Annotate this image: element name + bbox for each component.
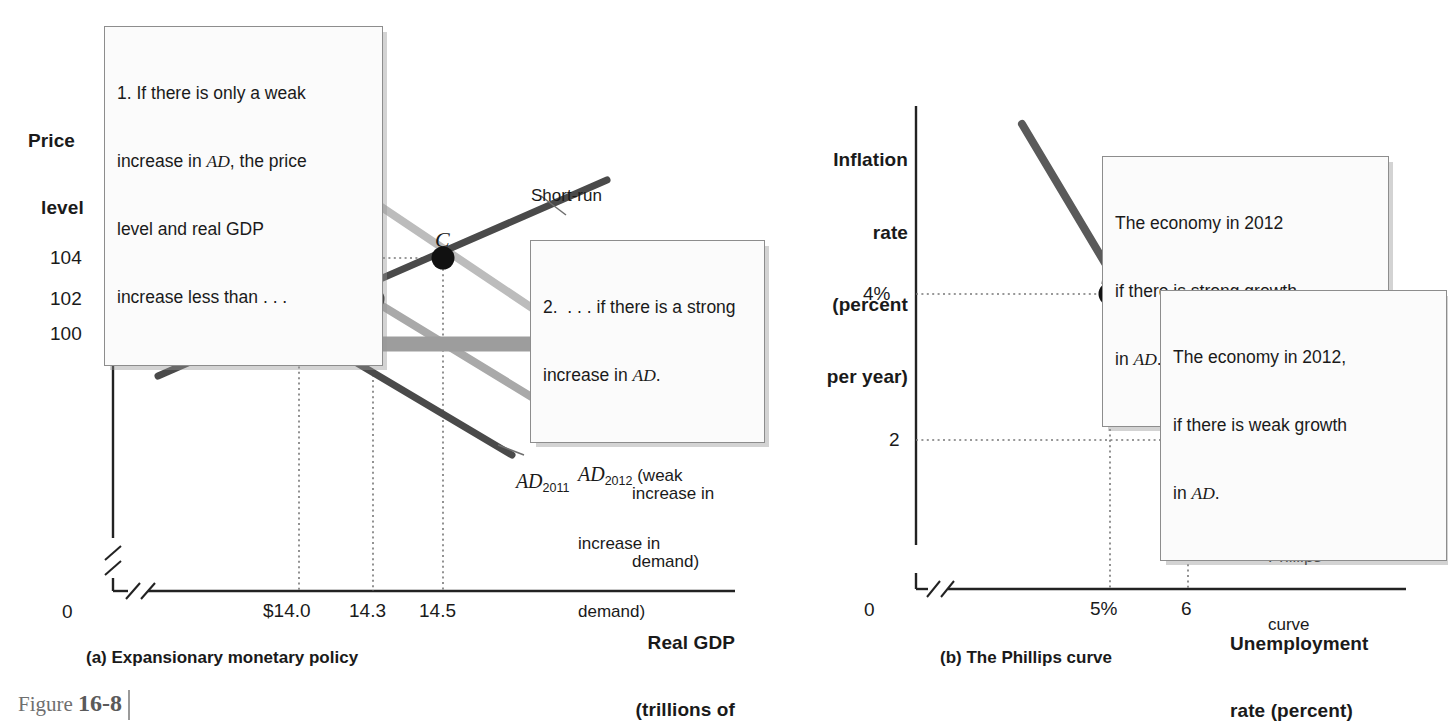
ad2011-sub: 2011 [543, 481, 570, 495]
x-tick-14-5: 14.5 [419, 600, 456, 622]
ad2011-base: AD [516, 470, 543, 492]
panel-a-caption: (a) Expansionary monetary policy [86, 648, 358, 668]
callout3-ad: AD [1133, 349, 1156, 369]
b-x-title-line2: rate (percent) [1230, 700, 1430, 722]
phillips-line2: curve [1268, 614, 1322, 637]
b-y-title-line2: rate [818, 221, 908, 245]
b-x-title-line1: Unemployment [1230, 633, 1430, 655]
ad-weak-line2: increase in [578, 533, 683, 556]
ad-weak-line1: AD2012 (weak [578, 461, 683, 488]
ad-weak-l1: (weak [632, 466, 682, 485]
panel-b-x-axis-title: Unemployment rate (percent) [1230, 589, 1430, 727]
callout1-line2c: , the price [230, 151, 307, 171]
b-y-title-line4: per year) [818, 365, 908, 389]
figure-number: Figure 16-8 [18, 690, 122, 717]
callout3-line1: The economy in 2012 [1115, 212, 1377, 235]
y-tick-104: 104 [50, 247, 82, 269]
panel-a-origin: 0 [62, 601, 73, 623]
x-axis-title-line2: (trillions of [549, 699, 735, 721]
y-tick-102: 102 [50, 288, 82, 310]
y-tick-100: 100 [50, 323, 82, 345]
b-x-tick-5: 5% [1090, 598, 1117, 620]
b-y-tick-4: 4% [863, 283, 890, 305]
panel-expansionary-monetary-policy: Price level 104 102 100 0 $14.0 14.3 14.… [0, 0, 790, 727]
callout1-line2: increase in AD, the price [117, 150, 371, 173]
callout4-line3c: . [1215, 483, 1220, 503]
y-axis-title-line2: level [28, 197, 84, 219]
sras-line1: Short-run [531, 185, 626, 208]
callout-weak-increase: 1. If there is only a weak increase in A… [104, 26, 383, 366]
callout-weak-growth: The economy in 2012, if there is weak gr… [1160, 290, 1447, 561]
callout1-line4: increase less than . . . [117, 286, 371, 309]
b-y-tick-2: 2 [889, 429, 900, 451]
callout1-line3: level and real GDP [117, 218, 371, 241]
x-tick-14-0: $14.0 [263, 600, 311, 622]
panel-b-origin: 0 [864, 599, 875, 621]
callout3-line3a: in [1115, 349, 1133, 369]
callout1-line1: 1. If there is only a weak [117, 82, 371, 105]
x-tick-14-3: 14.3 [349, 600, 386, 622]
figure-number-value: 16-8 [78, 690, 122, 716]
figure-number-rule [128, 690, 130, 720]
callout-strong-increase: 2. . . . if there is a strong increase i… [530, 240, 765, 443]
callout1-line2a: increase in [117, 151, 207, 171]
callout4-line3a: in [1173, 483, 1191, 503]
ad-weak-sub: 2012 [605, 474, 633, 488]
panel-a-y-axis-title: Price level [28, 86, 84, 264]
callout4-line3: in AD. [1173, 482, 1435, 505]
point-label-c: C [435, 227, 450, 253]
callout4-ad: AD [1191, 483, 1214, 503]
callout2-ad: AD [633, 365, 656, 385]
y-axis-title-line1: Price [28, 130, 84, 152]
panel-b-y-axis-title: Inflation rate (percent per year) [818, 100, 908, 438]
ad-weak-line3: demand) [578, 601, 683, 624]
callout2-line2: increase in AD. [543, 364, 753, 387]
ad-weak-base: AD [578, 463, 605, 485]
label-ad2012-weak: AD2012 (weak increase in demand) [578, 415, 683, 669]
panel-phillips-curve: Inflation rate (percent per year) 4% 2 0… [790, 0, 1448, 727]
callout1-ad: AD [207, 151, 230, 171]
panel-b-caption: (b) The Phillips curve [940, 648, 1112, 668]
label-ad2011: AD2011 [497, 450, 569, 513]
b-x-tick-6: 6 [1181, 598, 1192, 620]
callout4-line2: if there is weak growth [1173, 414, 1435, 437]
callout4-line1: The economy in 2012, [1173, 346, 1435, 369]
callout2-line2a: increase in [543, 365, 633, 385]
callout2-line1: 2. . . . if there is a strong [543, 296, 753, 319]
b-y-title-line1: Inflation [818, 148, 908, 172]
figure-label: Figure [18, 692, 73, 716]
callout2-line2c: . [656, 365, 661, 385]
